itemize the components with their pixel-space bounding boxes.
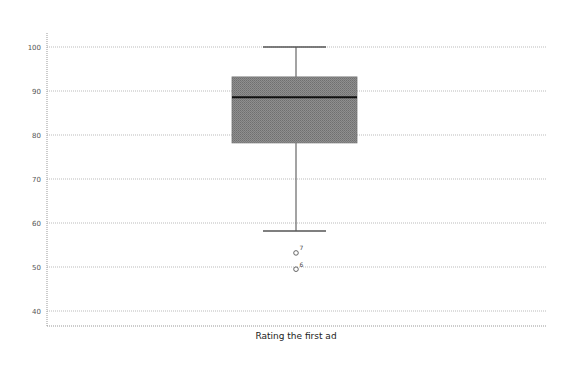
box-series: 76: [232, 47, 357, 272]
y-tick-label: 40: [32, 308, 41, 316]
outlier-point: [294, 267, 299, 272]
iqr-box: [232, 77, 357, 143]
outlier-label: 6: [300, 261, 304, 268]
y-tick-label: 60: [32, 220, 41, 228]
y-tick-label: 50: [32, 264, 41, 272]
box-plot-chart: 405060708090100 76 Rating the first ad: [0, 0, 573, 365]
y-tick-label: 80: [32, 132, 41, 140]
y-axis-ticks: 405060708090100: [28, 44, 41, 316]
x-axis-label: Rating the first ad: [255, 331, 336, 341]
y-tick-label: 70: [32, 176, 41, 184]
outlier-point: [294, 251, 299, 256]
y-tick-label: 90: [32, 88, 41, 96]
outlier-label: 7: [300, 244, 304, 251]
y-tick-label: 100: [28, 44, 41, 52]
